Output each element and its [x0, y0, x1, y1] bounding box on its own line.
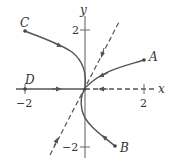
- x-tick-label-neg2: −2: [16, 97, 32, 110]
- trajectory-a: A: [86, 50, 158, 87]
- trajectory-b-start-point: [113, 144, 117, 148]
- trajectory-d-start-point: [23, 87, 27, 91]
- trajectory-d: D: [23, 73, 35, 91]
- trajectory-b: B: [81, 89, 129, 155]
- x-axis: x −2 2: [16, 82, 165, 110]
- x-axis-label: x: [158, 82, 165, 96]
- x-tick-label-2: 2: [140, 97, 147, 110]
- y-tick-label-neg2: −2: [62, 141, 78, 154]
- label-c: C: [20, 16, 29, 30]
- phase-portrait-diagram: y 2 −2 x −2 2 C A B: [0, 0, 173, 161]
- label-d: D: [24, 73, 35, 87]
- y-axis-label: y: [79, 3, 87, 17]
- label-b: B: [119, 141, 129, 155]
- trajectory-b-arrow: [104, 137, 110, 142]
- y-tick-label-2: 2: [72, 24, 79, 37]
- trajectory-a-start-point: [142, 58, 146, 62]
- origin-point: [84, 88, 87, 91]
- label-a: A: [148, 50, 158, 64]
